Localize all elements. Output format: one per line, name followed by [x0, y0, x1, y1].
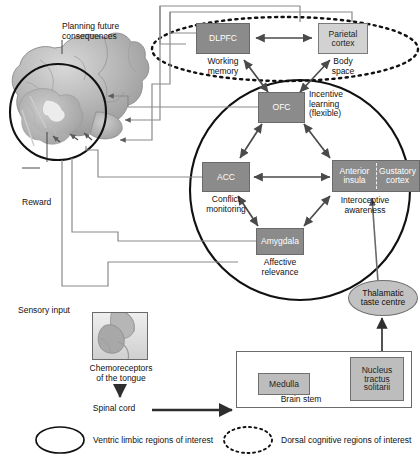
node-thalamatic-taste-centre[interactable]: Thalamatic taste centre — [348, 280, 418, 316]
legend-ventral-shape — [36, 427, 84, 453]
tongue-image — [92, 312, 148, 360]
node-ofc-label: OFC — [273, 103, 291, 112]
route-acc-to-brain — [86, 146, 202, 177]
node-parietal-cortex[interactable]: Parietal cortex — [318, 23, 368, 54]
caption-acc-line2: monitoring — [192, 205, 260, 215]
caption-dlpfc-line2: memory — [188, 67, 258, 77]
node-amygdala[interactable]: Amygdala — [256, 228, 304, 255]
node-medulla-label: Medulla — [269, 380, 299, 389]
node-amygdala-label: Amygdala — [261, 237, 299, 246]
node-nts-label-line3: solitarii — [364, 383, 390, 392]
caption-interoceptive: Interoceptive awareness — [326, 196, 404, 215]
node-ofc[interactable]: OFC — [258, 92, 305, 123]
label-spinal-cord: Spinal cord — [78, 404, 150, 414]
label-sensory-input: Sensory input — [18, 306, 100, 316]
node-acc-label: ACC — [217, 173, 235, 182]
arrow-ofc-insula — [304, 124, 330, 158]
node-nucleus-tractus-solitarii[interactable]: Nucleus tractus solitarii — [350, 357, 404, 401]
label-reward: Reward — [22, 198, 82, 208]
caption-acc: Conflict monitoring — [192, 195, 260, 214]
caption-amygdala-line2: relevance — [248, 268, 312, 278]
legend-ventral-label: Ventric limbic regions of interest — [93, 435, 213, 445]
node-thalamatic-label-line2: taste centre — [361, 298, 405, 307]
node-dlpfc-label: DLPFC — [209, 34, 237, 43]
label-chemoreceptors-line2: of the tongue — [76, 374, 166, 384]
node-anterior-insula[interactable]: Anterior insula — [333, 161, 376, 191]
node-insula-gustatory[interactable]: Anterior insula Gustatory cortex — [332, 160, 420, 192]
legend-dorsal-shape — [224, 427, 272, 453]
diagram-canvas: Planning future consequences Reward DLPF… — [0, 0, 420, 461]
caption-dlpfc: Working memory — [188, 57, 258, 76]
label-chemoreceptors: Chemoreceptors of the tongue — [76, 364, 166, 383]
node-medulla[interactable]: Medulla — [258, 373, 310, 395]
node-gustatory-label-line2: cortex — [386, 176, 409, 185]
node-acc[interactable]: ACC — [202, 162, 250, 192]
caption-ofc-line3: (flexible) — [309, 109, 371, 119]
label-brain-stem: Brain stem — [268, 395, 334, 405]
node-gustatory-cortex[interactable]: Gustatory cortex — [376, 161, 419, 191]
arrow-ofc-acc — [240, 124, 262, 158]
legend-dorsal-label: Dorsal cognitive regions of interest — [281, 435, 411, 445]
caption-interoceptive-line2: awareness — [326, 206, 404, 216]
caption-ofc: Incentive learning (flexible) — [309, 90, 371, 119]
node-dlpfc[interactable]: DLPFC — [196, 23, 250, 54]
caption-parietal-line2: space — [310, 67, 376, 77]
label-planning-line2: consequences — [62, 32, 154, 42]
node-parietal-label-line2: cortex — [331, 39, 354, 48]
caption-parietal: Body space — [310, 57, 376, 76]
label-planning: Planning future consequences — [62, 22, 154, 41]
caption-amygdala: Affective relevance — [248, 258, 312, 277]
node-anterior-insula-label-line2: insula — [343, 176, 365, 185]
